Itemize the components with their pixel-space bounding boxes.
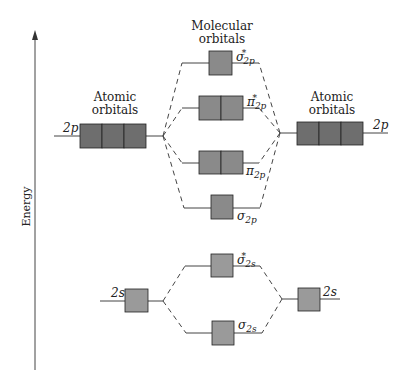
molecular-orbitals-header: Molecular orbitals <box>185 20 259 46</box>
right-2p-level <box>280 122 388 145</box>
right-2p-label: 2p <box>373 118 388 132</box>
left-2p-label: 2p <box>63 121 78 135</box>
right-2s-label: 2s <box>323 285 337 299</box>
label-sigma-star-2s: σ2s* <box>237 251 260 269</box>
label-sigma-2p: σ2p <box>237 209 257 225</box>
label-pi-2p: π2p <box>246 164 265 180</box>
left-2s-label: 2s <box>111 286 125 300</box>
mo-diagram-canvas <box>0 0 414 389</box>
left-2s-level <box>100 289 163 312</box>
left-atomic-orbitals-header: Atomic orbitals <box>85 91 145 117</box>
energy-axis-label: Energy <box>20 179 33 235</box>
label-pi-star-2p: π2p* <box>247 93 271 111</box>
label-sigma-2s: σ2s <box>238 318 257 334</box>
correlation-lines-2p <box>163 63 280 208</box>
right-atomic-orbitals-header: Atomic orbitals <box>302 91 362 117</box>
label-sigma-star-2p: σ2p* <box>236 48 260 66</box>
arrow-up-icon <box>32 30 38 40</box>
energy-axis <box>32 30 38 370</box>
